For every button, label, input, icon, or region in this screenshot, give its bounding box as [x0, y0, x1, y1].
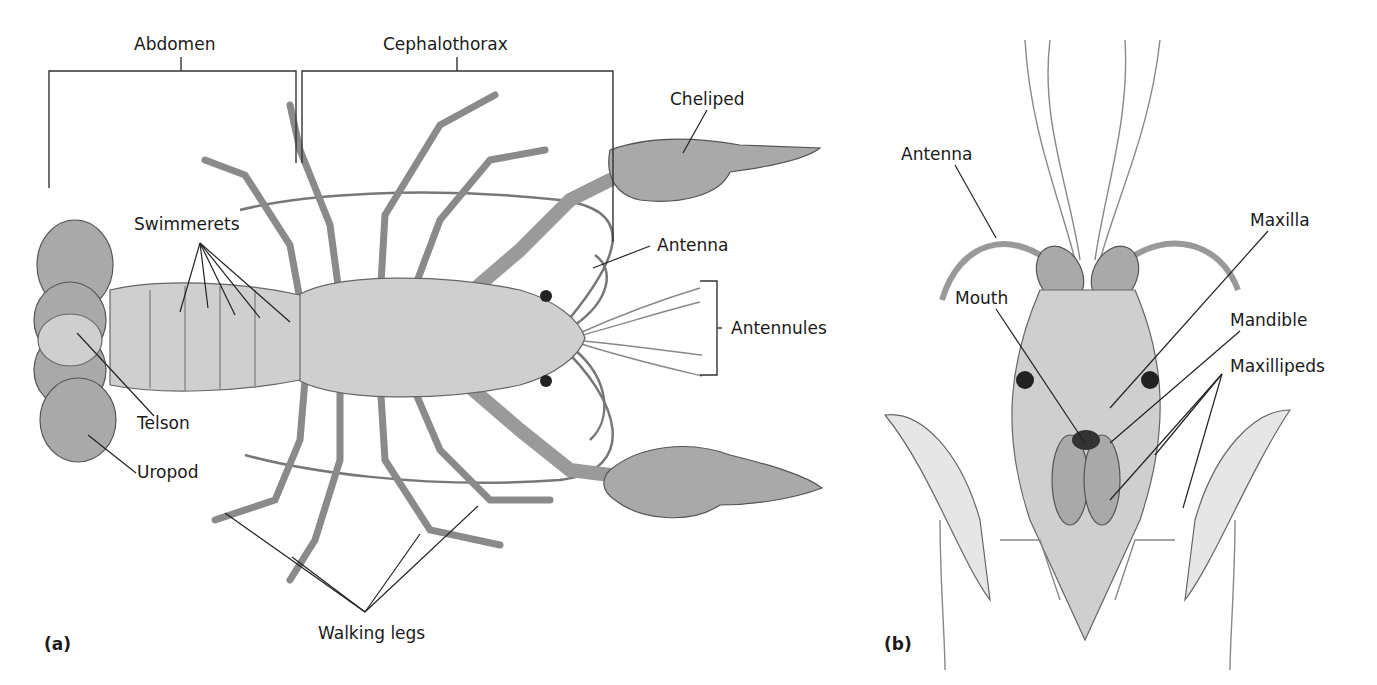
label-maxillipeds: Maxillipeds	[1230, 356, 1325, 376]
label-antenna-b: Antenna	[901, 144, 973, 164]
label-mandible: Mandible	[1230, 310, 1307, 330]
label-swimmerets: Swimmerets	[134, 214, 240, 234]
panel-label-a: (a)	[44, 634, 71, 654]
label-uropod: Uropod	[137, 462, 198, 482]
label-mouth: Mouth	[955, 288, 1008, 308]
label-telson: Telson	[137, 413, 190, 433]
label-cheliped: Cheliped	[670, 89, 745, 109]
label-abdomen: Abdomen	[134, 34, 215, 54]
label-maxilla: Maxilla	[1250, 210, 1310, 230]
panel-label-b: (b)	[884, 634, 912, 654]
crayfish-ventral-drawing	[34, 95, 822, 580]
label-cephalothorax: Cephalothorax	[383, 34, 508, 54]
label-walking-legs: Walking legs	[318, 623, 425, 643]
crayfish-head-drawing	[885, 40, 1290, 670]
label-antenna-a: Antenna	[657, 235, 729, 255]
label-antennules: Antennules	[731, 318, 827, 338]
